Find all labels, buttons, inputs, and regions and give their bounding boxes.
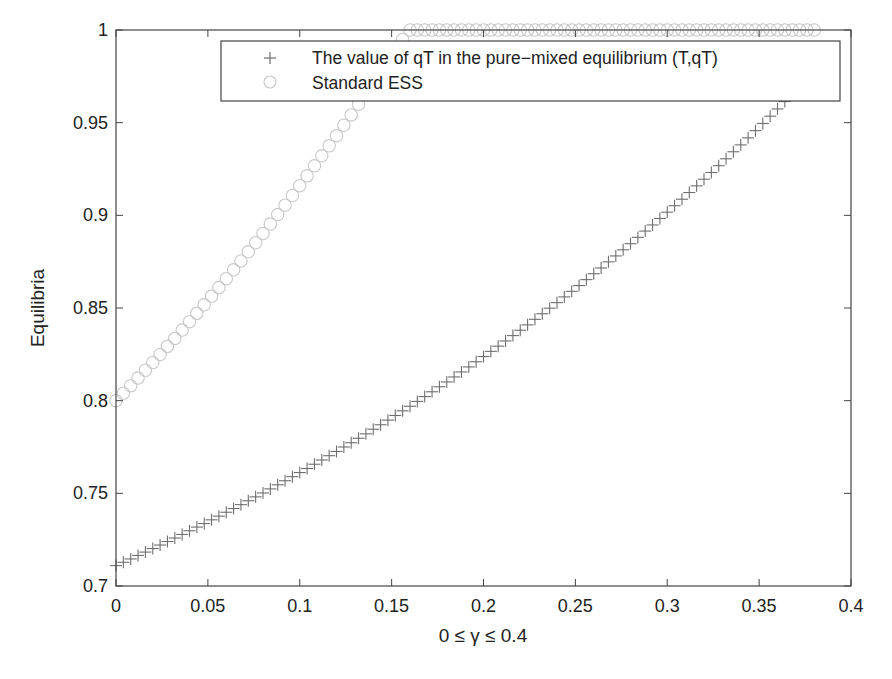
data-point-circle	[183, 316, 195, 328]
data-point-plus	[698, 173, 710, 185]
data-point-plus	[514, 324, 526, 336]
data-point-plus	[125, 553, 137, 565]
data-point-plus	[522, 319, 534, 331]
x-tick-label: 0.35	[742, 596, 777, 616]
x-tick-label: 0.1	[287, 596, 312, 616]
data-point-plus	[411, 395, 423, 407]
data-point-circle	[169, 332, 181, 344]
data-point-plus	[132, 549, 144, 561]
data-point-plus	[551, 297, 563, 309]
y-tick-label: 0.85	[73, 298, 108, 318]
data-point-plus	[617, 244, 629, 256]
x-tick-label: 0.3	[655, 596, 680, 616]
data-point-circle	[191, 307, 203, 319]
data-point-circle	[235, 255, 247, 267]
data-point-plus	[463, 361, 475, 373]
data-point-plus	[580, 274, 592, 286]
data-point-plus	[485, 345, 497, 357]
data-point-plus	[639, 225, 651, 237]
data-point-plus	[691, 180, 703, 192]
data-point-circle	[117, 387, 129, 399]
data-point-plus	[727, 146, 739, 158]
data-point-plus	[735, 139, 747, 151]
data-point-plus	[455, 366, 467, 378]
data-point-plus	[625, 238, 637, 250]
data-point-plus	[492, 340, 504, 352]
data-point-circle	[154, 348, 166, 360]
data-point-circle	[213, 281, 225, 293]
data-point-plus	[749, 125, 761, 137]
data-point-plus	[764, 110, 776, 122]
legend-label-qt: The value of qT in the pure−mixed equili…	[312, 48, 718, 68]
data-point-plus	[147, 543, 159, 555]
data-point-plus	[558, 291, 570, 303]
data-point-circle	[132, 372, 144, 384]
data-point-plus	[161, 536, 173, 548]
data-point-circle	[125, 379, 137, 391]
x-tick-label: 0.25	[558, 596, 593, 616]
legend-label-standard-ess: Standard ESS	[312, 73, 423, 93]
data-point-plus	[661, 206, 673, 218]
data-point-circle	[220, 273, 232, 285]
equilibria-chart: 00.050.10.150.20.250.30.350.4 0.70.750.8…	[0, 0, 892, 679]
data-point-plus	[566, 285, 578, 297]
data-point-circle	[147, 356, 159, 368]
data-point-plus	[713, 160, 725, 172]
x-axis: 00.050.10.150.20.250.30.350.4	[111, 30, 864, 616]
data-point-plus	[529, 313, 541, 325]
data-point-plus	[705, 167, 717, 179]
data-point-plus	[669, 200, 681, 212]
data-point-circle	[139, 364, 151, 376]
y-axis-title: Equilibria	[27, 268, 48, 347]
data-point-plus	[595, 262, 607, 274]
data-point-plus	[676, 193, 688, 205]
data-point-plus	[433, 381, 445, 393]
data-point-plus	[720, 153, 732, 165]
data-point-plus	[470, 356, 482, 368]
data-point-plus	[602, 256, 614, 268]
data-point-plus	[683, 187, 695, 199]
data-point-plus	[117, 556, 129, 568]
data-point-plus	[154, 539, 166, 551]
x-tick-label: 0.05	[190, 596, 225, 616]
data-point-plus	[139, 546, 151, 558]
data-point-plus	[448, 371, 460, 383]
x-tick-label: 0.15	[374, 596, 409, 616]
data-point-plus	[654, 212, 666, 224]
data-point-circle	[227, 264, 239, 276]
data-point-plus	[632, 231, 644, 243]
data-point-plus	[573, 280, 585, 292]
data-point-circle	[242, 246, 254, 258]
data-point-plus	[757, 117, 769, 129]
data-point-plus	[426, 386, 438, 398]
data-point-circle	[345, 109, 357, 121]
legend: The value of qT in the pure−mixed equili…	[221, 41, 840, 101]
data-point-circle	[198, 299, 210, 311]
x-axis-title: 0 ≤ γ ≤ 0.4	[439, 625, 528, 646]
data-point-plus	[536, 308, 548, 320]
data-point-circle	[161, 340, 173, 352]
data-point-plus	[478, 351, 490, 363]
data-point-plus	[507, 330, 519, 342]
data-point-plus	[500, 335, 512, 347]
y-tick-label: 1	[98, 20, 108, 40]
data-point-circle	[205, 290, 217, 302]
x-tick-label: 0.4	[838, 596, 863, 616]
data-point-plus	[610, 250, 622, 262]
plot-area-frame	[116, 30, 851, 586]
data-point-plus	[441, 376, 453, 388]
x-tick-label: 0	[111, 596, 121, 616]
data-point-plus	[544, 302, 556, 314]
data-point-plus	[419, 391, 431, 403]
y-tick-label: 0.75	[73, 483, 108, 503]
series-qt-pure-mixed	[110, 81, 806, 572]
y-tick-label: 0.8	[83, 391, 108, 411]
data-point-plus	[169, 532, 181, 544]
y-tick-label: 0.7	[83, 576, 108, 596]
data-point-plus	[647, 219, 659, 231]
data-point-plus	[742, 132, 754, 144]
y-tick-label: 0.95	[73, 113, 108, 133]
data-point-plus	[588, 268, 600, 280]
y-tick-label: 0.9	[83, 205, 108, 225]
data-point-plus	[772, 103, 784, 115]
